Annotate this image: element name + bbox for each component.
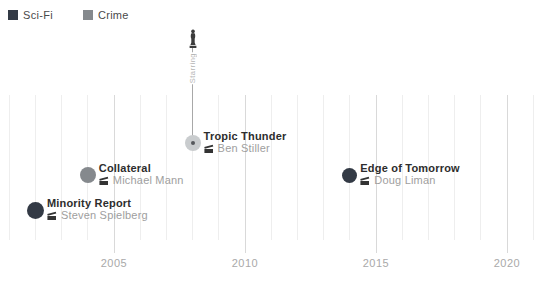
x-tick-label-2010: 2010 xyxy=(223,257,267,269)
point-label: Tropic ThunderBen Stiller xyxy=(204,130,287,154)
data-point-edge-of-tomorrow[interactable] xyxy=(342,168,357,183)
minor-gridline-2011 xyxy=(271,95,272,240)
movie-director-row: Ben Stiller xyxy=(204,142,287,154)
x-tick-label-2015: 2015 xyxy=(354,257,398,269)
point-center-dot xyxy=(191,141,195,145)
point-label: Minority ReportSteven Spielberg xyxy=(47,197,148,221)
director-name: Steven Spielberg xyxy=(61,209,148,221)
movie-title: Tropic Thunder xyxy=(204,130,287,142)
movie-director-row: Doug Liman xyxy=(360,174,460,186)
minor-gridline-2013 xyxy=(323,95,324,240)
legend-swatch-icon xyxy=(8,10,18,20)
minor-gridline-2019 xyxy=(480,95,481,240)
legend-item-crime[interactable]: Crime xyxy=(83,9,129,21)
clapperboard-icon xyxy=(204,143,214,153)
director-name: Michael Mann xyxy=(113,174,184,186)
statuette-icon xyxy=(188,29,198,49)
movie-title: Edge of Tomorrow xyxy=(360,162,460,174)
clapperboard-icon xyxy=(47,210,57,220)
minor-gridline-2001 xyxy=(9,95,10,240)
x-tick-label-2020: 2020 xyxy=(485,257,529,269)
director-name: Doug Liman xyxy=(374,174,435,186)
movie-director-row: Steven Spielberg xyxy=(47,209,148,221)
clapperboard-icon xyxy=(99,175,109,185)
x-tick-label-2005: 2005 xyxy=(92,257,136,269)
major-gridline-2020 xyxy=(507,95,508,253)
pin-rotated-label: Starring xyxy=(188,52,197,84)
movie-director-row: Michael Mann xyxy=(99,174,184,186)
legend-item-sci-fi[interactable]: Sci-Fi xyxy=(8,9,53,21)
director-name: Ben Stiller xyxy=(218,142,270,154)
movie-title: Collateral xyxy=(99,162,184,174)
clapperboard-icon xyxy=(360,175,370,185)
data-point-minority-report[interactable] xyxy=(27,202,44,219)
point-label: CollateralMichael Mann xyxy=(99,162,184,186)
legend-label: Sci-Fi xyxy=(23,9,53,21)
movie-title: Minority Report xyxy=(47,197,148,209)
minor-gridline-2021 xyxy=(533,95,534,240)
legend-label: Crime xyxy=(98,9,129,21)
minor-gridline-2009 xyxy=(218,95,219,240)
point-label: Edge of TomorrowDoug Liman xyxy=(360,162,460,186)
minor-gridline-2012 xyxy=(297,95,298,240)
legend: Sci-FiCrime xyxy=(8,9,129,21)
data-point-tropic-thunder[interactable] xyxy=(185,135,201,151)
major-gridline-2010 xyxy=(245,95,246,253)
movie-timeline-chart: 2005201020152020 Starring Minority Repor… xyxy=(0,0,536,294)
data-point-collateral[interactable] xyxy=(80,167,96,183)
legend-swatch-icon xyxy=(83,10,93,20)
